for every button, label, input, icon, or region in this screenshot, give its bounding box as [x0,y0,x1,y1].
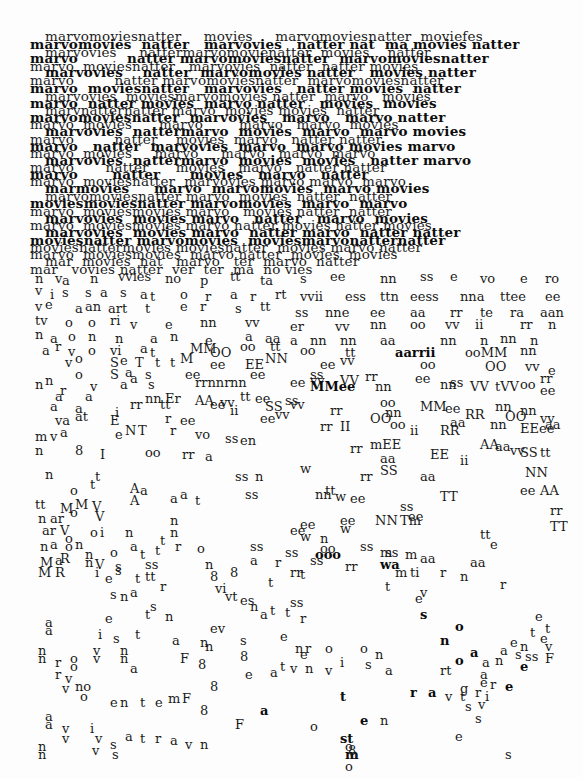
scattered-letter: 8 [348,744,356,757]
scattered-letter: t [530,626,535,639]
scattered-letter: vv [335,320,350,333]
scattered-letter: ss [235,470,248,483]
scattered-letter: tt [325,484,335,497]
scattered-letter: SS [520,446,538,459]
scattered-letter: aa [495,440,511,453]
scattered-letter: o [345,760,353,773]
scattered-letter: n [38,652,46,665]
scattered-letter: r [250,290,256,303]
scattered-letter: rr [360,470,372,483]
scattered-letter: vo [480,272,495,285]
scattered-letter: o [360,642,368,655]
scattered-letter: m [35,430,47,443]
scattered-letter: N [125,424,136,437]
scattered-letter: w [335,490,346,503]
scattered-letter: o [65,316,73,329]
scattered-letter: n [45,468,53,481]
scattered-letter: t [268,576,273,589]
scattered-letter: a [130,540,138,553]
scattered-letter: n [35,378,43,391]
scattered-letter: t [545,622,550,635]
scattered-letter: oo [520,378,536,391]
scattered-letter: a [500,644,508,657]
scattered-letter: vv [340,354,355,367]
scattered-letter: n [440,634,449,647]
scattered-letter: r [275,556,281,569]
scattered-letter: 8 [210,680,218,693]
scattered-letter: n [88,330,96,343]
scattered-letter: v [325,664,332,677]
scattered-letter: vv [290,398,305,411]
scattered-letter: tt [145,570,155,583]
scattered-letter: aa [470,556,486,569]
scattered-letter: v [62,682,69,695]
scattered-letter: ee [250,368,265,381]
scattered-letter: Tm [400,514,421,527]
scattered-letter: nn [520,344,537,357]
scattered-letter: r [55,340,61,353]
scattered-letter: ii [230,404,238,417]
scattered-letter: r [300,612,306,625]
scattered-letter: nn [200,316,217,329]
scattered-letter: o [455,620,464,633]
scattered-letter: rrnnr [195,376,230,389]
scattered-letter: o [88,344,96,357]
scattered-letter: t [140,732,145,745]
scattered-letter: a [290,334,298,347]
scattered-letter: vv [445,318,460,331]
scattered-letter: ss [225,432,238,445]
scattered-letter: oo [145,446,161,459]
scattered-letter: t [170,356,175,369]
scattered-letter: rr [520,318,532,331]
scattered-letter: n [205,640,213,653]
scattered-letter: NN [525,466,548,479]
scattered-letter: er [290,320,304,333]
scattered-letter: ss [525,650,538,663]
scattered-letter: e [490,538,498,551]
scattered-letter: a [150,332,158,345]
scattered-letter: e [110,696,118,709]
scattered-letter: nn [500,332,517,345]
scattered-letter: v [185,738,192,751]
scattered-letter: II [340,420,350,433]
scattered-letter: i [90,722,94,735]
scattered-letter: e [480,676,488,689]
scattered-letter: ess [345,290,366,303]
scattered-letter: rr [550,504,562,517]
scattered-letter: ii [460,454,468,467]
scattered-letter: n [200,738,208,751]
scattered-letter: ri [110,314,120,327]
scattered-letter: e [280,630,288,643]
scattered-letter: t [160,534,165,547]
scattered-letter: ss [360,540,373,553]
scattered-letter: v [92,744,99,757]
scattered-letter: t [280,660,285,673]
scattered-letter: n [40,540,48,553]
scattered-letter: s [150,600,157,613]
scattered-letter: n [125,526,133,539]
scattered-letter: n [75,538,83,551]
scattered-letter: nn [370,318,387,331]
scattered-letter: s [85,286,92,299]
scattered-letter: ss [250,540,263,553]
scattered-letter: n [170,526,178,539]
scattered-letter: n [255,470,263,483]
scattered-letter: ee [330,270,345,283]
scattered-letter: ss [285,546,298,559]
scattered-letter: w [340,522,351,535]
scattered-letter: e [45,298,53,311]
scattered-letter: oo [300,344,316,357]
scattered-letter: r [410,686,417,699]
scattered-letter: ee [210,358,225,371]
scattered-letter: a [50,538,58,551]
scattered-letter: F [545,652,554,665]
scattered-letter: 8 [240,650,248,663]
scattered-letter: rr [182,448,194,461]
scattered-letter: a [125,730,133,743]
scattered-letter: v [35,300,42,313]
scattered-letter: tt [230,270,240,283]
scattered-letter: MM [420,400,447,413]
scattered-letter: NN [375,514,398,527]
scattered-letter: t [135,572,140,585]
scattered-letter: OO [485,360,506,373]
